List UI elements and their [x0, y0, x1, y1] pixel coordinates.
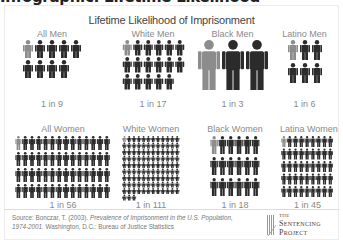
- person-icon: [146, 188, 150, 194]
- person-icon: [311, 136, 316, 147]
- person-icon: [84, 136, 90, 150]
- person-icon: [235, 136, 243, 154]
- person-icon: [63, 168, 69, 182]
- person-icon: [70, 168, 76, 182]
- person-icon: [142, 175, 146, 181]
- person-icon: [84, 152, 90, 166]
- person-icon: [23, 40, 33, 58]
- person-icon: [252, 178, 260, 196]
- person-icon: [77, 184, 83, 198]
- person-icon: [127, 156, 131, 162]
- person-icon: [210, 136, 218, 154]
- person-icon: [16, 136, 22, 150]
- person-icon: [311, 149, 316, 160]
- person-icon: [59, 40, 69, 58]
- person-icon: [29, 152, 35, 166]
- person-icon: [151, 169, 155, 175]
- sentencing-project-logo: THE Sentencing Project: [266, 213, 341, 239]
- person-icon: [170, 162, 174, 168]
- person-icon: [156, 188, 160, 194]
- person-icon: [36, 168, 42, 182]
- person-icon: [104, 152, 110, 166]
- person-icon: [47, 60, 57, 78]
- pictogram-black-women: [210, 136, 260, 199]
- person-icon: [122, 143, 126, 149]
- person-icon: [328, 161, 333, 172]
- person-icon: [57, 168, 63, 182]
- person-icon: [198, 40, 220, 90]
- person-icon: [43, 184, 49, 198]
- person-icon: [146, 182, 150, 188]
- person-icon: [175, 143, 179, 149]
- person-icon: [50, 184, 56, 198]
- person-icon: [137, 182, 141, 188]
- person-icon: [91, 168, 97, 182]
- person-icon: [59, 60, 69, 78]
- group-ratio: 1 in 9: [17, 99, 87, 109]
- person-icon: [43, 168, 49, 182]
- person-icon: [84, 184, 90, 198]
- person-icon: [97, 184, 103, 198]
- person-icon: [244, 157, 252, 175]
- person-icon: [287, 136, 292, 147]
- person-icon: [146, 156, 150, 162]
- group-label: All Women: [13, 124, 113, 134]
- person-icon: [122, 40, 131, 56]
- person-icon: [316, 174, 321, 185]
- person-icon: [50, 136, 56, 150]
- person-icon: [316, 136, 321, 147]
- person-icon: [166, 162, 170, 168]
- person-icon: [146, 162, 150, 168]
- person-icon: [282, 149, 287, 160]
- person-icon: [23, 184, 29, 198]
- person-icon: [161, 143, 165, 149]
- person-icon: [122, 136, 126, 142]
- person-icon: [127, 136, 131, 142]
- person-icon: [156, 136, 160, 142]
- person-icon: [170, 149, 174, 155]
- person-icon: [57, 184, 63, 198]
- person-icon: [175, 136, 179, 142]
- person-icon: [142, 162, 146, 168]
- person-icon: [132, 136, 136, 142]
- person-icon: [161, 169, 165, 175]
- logo-line1: Sentencing: [279, 219, 321, 228]
- person-icon: [146, 169, 150, 175]
- person-icon: [154, 74, 163, 90]
- person-icon: [142, 143, 146, 149]
- page-heading-partial: Infographic: Lifetime Likelihood: [0, 0, 260, 4]
- person-icon: [104, 136, 110, 150]
- person-icon: [143, 74, 152, 90]
- person-icon: [222, 40, 244, 90]
- person-icon: [23, 168, 29, 182]
- person-icon: [132, 156, 136, 162]
- person-icon: [161, 175, 165, 181]
- person-icon: [166, 156, 170, 162]
- group-label: Latino Men: [277, 29, 332, 39]
- person-icon: [133, 57, 142, 73]
- person-icon: [91, 184, 97, 198]
- person-icon: [170, 169, 174, 175]
- group-label: White Men: [118, 29, 188, 39]
- person-icon: [142, 156, 146, 162]
- person-icon: [137, 162, 141, 168]
- person-icon: [328, 149, 333, 160]
- person-icon: [142, 188, 146, 194]
- person-icon: [227, 178, 235, 196]
- person-icon: [97, 152, 103, 166]
- person-icon: [282, 136, 287, 147]
- person-icon: [244, 178, 252, 196]
- person-icon: [305, 174, 310, 185]
- person-icon: [151, 149, 155, 155]
- person-icon: [282, 161, 287, 172]
- person-icon: [299, 161, 304, 172]
- person-icon: [132, 169, 136, 175]
- person-icon: [287, 174, 292, 185]
- person-icon: [146, 136, 150, 142]
- person-icon: [210, 178, 218, 196]
- person-icon: [143, 57, 152, 73]
- person-icon: [137, 188, 141, 194]
- person-icon: [70, 184, 76, 198]
- person-icon: [57, 152, 63, 166]
- person-icon: [91, 152, 97, 166]
